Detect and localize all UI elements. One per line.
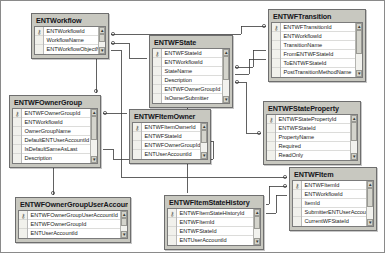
column-name[interactable]: SubmitterENTUserAccountId: [302, 208, 366, 217]
scrollbar-track[interactable]: [121, 218, 127, 231]
entity-table-entwfstate[interactable]: ENTWFState⚷ENTWFStateIdENTWorkflowIdStat…: [149, 35, 233, 108]
column-name[interactable]: ENTWorkflowId: [44, 27, 98, 36]
scroll-down-icon[interactable]: ▼: [201, 152, 207, 159]
column-name[interactable]: ENTWFOwnerGroupId: [28, 220, 120, 229]
column-name[interactable]: IsDefaultSameAsLast: [22, 145, 90, 154]
column-name[interactable]: ENTWFOwnerGroupId: [142, 141, 200, 150]
scroll-up-icon[interactable]: ▲: [91, 109, 97, 116]
scroll-up-icon[interactable]: ▲: [121, 211, 127, 218]
column-name[interactable]: ENTWFOwnerGroupId: [162, 85, 222, 94]
scroll-up-icon[interactable]: ▲: [99, 27, 105, 34]
column-name[interactable]: IsOwnerSubmitter: [162, 94, 222, 103]
entity-table-entwfownergroup[interactable]: ENTWFOwnerGroup⚷ENTWFOwnerGroupIdENTWork…: [9, 95, 101, 168]
column-name[interactable]: ENTUserAccountId: [177, 236, 253, 245]
entity-title: ENTWFStateProperty: [266, 104, 358, 114]
column-name[interactable]: ENTWFItemId: [177, 218, 253, 227]
column-name[interactable]: ReadOnly: [276, 151, 350, 160]
scrollbar-track[interactable]: [367, 188, 373, 219]
column-name[interactable]: ENTWorkflowId: [162, 58, 222, 67]
column-name-list: ENTWFStateIdENTWorkflowIdStateNameDescri…: [162, 49, 222, 103]
column-name[interactable]: DefaultENTUserAccountId: [22, 136, 90, 145]
column-name[interactable]: ENTWorkflowId: [281, 32, 355, 41]
entity-scrollbar[interactable]: ▲▼: [200, 123, 207, 159]
column-name[interactable]: ENTWorkflowId: [22, 118, 90, 127]
scroll-up-icon[interactable]: ▲: [367, 181, 373, 188]
column-name[interactable]: WorkflowName: [44, 36, 98, 45]
column-name[interactable]: ENTWFStatePropertyId: [276, 115, 350, 124]
database-diagram-canvas[interactable]: ENTWorkflow⚷ENTWorkflowIdWorkflowNameENT…: [0, 0, 385, 253]
scroll-down-icon[interactable]: ▼: [223, 96, 229, 103]
scroll-down-icon[interactable]: ▼: [254, 238, 260, 245]
scrollbar-track[interactable]: [356, 30, 362, 70]
column-name[interactable]: Required: [276, 142, 350, 151]
scrollbar-thumb[interactable]: [356, 30, 362, 54]
scrollbar-thumb[interactable]: [223, 56, 229, 80]
column-name[interactable]: FromENTWFStateId: [281, 50, 355, 59]
column-name[interactable]: ENTWFStateId: [276, 124, 350, 133]
column-name[interactable]: ENTWFStateId: [177, 227, 253, 236]
entity-table-entwfitemowner[interactable]: ENTWFItemOwner⚷ENTWFItemOwnerIdENTWFStat…: [129, 109, 211, 164]
scrollbar-thumb[interactable]: [367, 188, 373, 207]
entity-scrollbar[interactable]: ▲▼: [253, 209, 260, 245]
scrollbar-track[interactable]: [91, 116, 97, 156]
scroll-up-icon[interactable]: ▲: [201, 123, 207, 130]
column-name[interactable]: ENTWFItemOwnerId: [142, 123, 200, 132]
column-name[interactable]: ENTWFOwnerGroupId: [22, 109, 90, 118]
scroll-down-icon[interactable]: ▼: [356, 70, 362, 77]
scrollbar-thumb[interactable]: [351, 122, 357, 141]
column-name[interactable]: CurrentWFStateId: [302, 217, 366, 226]
column-name[interactable]: ENTUserAccountId: [142, 150, 200, 159]
column-name[interactable]: PostTransitionMethodName: [281, 68, 355, 77]
entity-table-entwfstateproperty[interactable]: ENTWFStateProperty⚷ENTWFStatePropertyIdE…: [263, 101, 361, 165]
scrollbar-thumb[interactable]: [121, 218, 127, 226]
column-name[interactable]: StateName: [162, 67, 222, 76]
scrollbar-track[interactable]: [223, 56, 229, 96]
scrollbar-thumb[interactable]: [201, 130, 207, 143]
entity-scrollbar[interactable]: ▲▼: [222, 49, 229, 103]
entity-scrollbar[interactable]: ▲▼: [366, 181, 373, 226]
scrollbar-track[interactable]: [201, 130, 207, 152]
scroll-up-icon[interactable]: ▲: [254, 209, 260, 216]
column-name[interactable]: ENTWorkflowId: [302, 190, 366, 199]
scroll-down-icon[interactable]: ▼: [367, 219, 373, 226]
column-name[interactable]: TransitionName: [281, 41, 355, 50]
column-name[interactable]: ENTUserAccountId: [28, 229, 120, 238]
column-name[interactable]: Description: [162, 76, 222, 85]
column-name[interactable]: ItemId: [302, 199, 366, 208]
scroll-down-icon[interactable]: ▼: [91, 156, 97, 163]
scroll-down-icon[interactable]: ▼: [351, 153, 357, 160]
column-name[interactable]: ENTWFStateId: [142, 132, 200, 141]
scrollbar-track[interactable]: [351, 122, 357, 153]
entity-scrollbar[interactable]: ▲▼: [120, 211, 127, 238]
column-name[interactable]: ENTWFStateId: [162, 49, 222, 58]
entity-table-entwfitemstatehistory[interactable]: ENTWFItemStateHistory⚷ENTWFItemStateHist…: [164, 195, 264, 250]
scroll-up-icon[interactable]: ▲: [351, 115, 357, 122]
entity-scrollbar[interactable]: ▲▼: [355, 23, 362, 77]
scrollbar-thumb[interactable]: [91, 116, 97, 140]
column-name[interactable]: ENTWFItemId: [302, 181, 366, 190]
entity-scrollbar[interactable]: ▲▼: [98, 27, 105, 54]
scroll-down-icon[interactable]: ▼: [121, 231, 127, 238]
entity-table-entwfownergroupuseraccount[interactable]: ENTWFOwnerGroupUserAccount⚷ENTWFOwnerGro…: [15, 197, 131, 243]
entity-scrollbar[interactable]: ▲▼: [350, 115, 357, 160]
entity-scrollbar[interactable]: ▲▼: [90, 109, 97, 163]
entity-table-entwftransition[interactable]: ENTWFTransition⚷ENTWFTransitionIdENTWork…: [268, 9, 366, 82]
column-name[interactable]: ToENTWFStateId: [281, 59, 355, 68]
scrollbar-thumb[interactable]: [254, 216, 260, 229]
column-name[interactable]: ENTWFItemStateHistoryId: [177, 209, 253, 218]
scroll-up-icon[interactable]: ▲: [356, 23, 362, 30]
scroll-up-icon[interactable]: ▲: [223, 49, 229, 56]
column-key-cell: [272, 68, 280, 77]
column-name[interactable]: OwnerGroupName: [22, 127, 90, 136]
scroll-down-icon[interactable]: ▼: [99, 47, 105, 54]
column-name[interactable]: ENTWFOwnerGroupUserAccountId: [28, 211, 120, 220]
column-name[interactable]: ENTWorkflowObjectName: [44, 45, 98, 54]
column-name[interactable]: ENTWFTransitionId: [281, 23, 355, 32]
scrollbar-track[interactable]: [254, 216, 260, 238]
column-name[interactable]: PropertyName: [276, 133, 350, 142]
entity-table-entwfitem[interactable]: ENTWFItem⚷ENTWFItemIdENTWorkflowIdItemId…: [289, 167, 377, 231]
column-name[interactable]: Description: [22, 154, 90, 163]
scrollbar-track[interactable]: [99, 34, 105, 47]
scrollbar-thumb[interactable]: [99, 34, 105, 42]
entity-table-entworkflow[interactable]: ENTWorkflow⚷ENTWorkflowIdWorkflowNameENT…: [31, 13, 109, 59]
